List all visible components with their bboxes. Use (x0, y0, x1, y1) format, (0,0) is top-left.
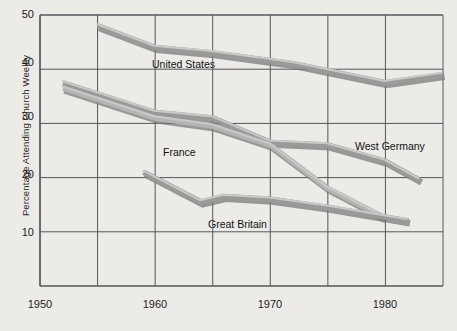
series-line-west-germany (63, 83, 420, 181)
series-shadow-united-states (99, 28, 444, 85)
series-highlight-united-states (97, 24, 442, 81)
chart-container: Percentage Attending Church Weekly 50 40… (0, 0, 457, 331)
plot-area (0, 0, 457, 331)
